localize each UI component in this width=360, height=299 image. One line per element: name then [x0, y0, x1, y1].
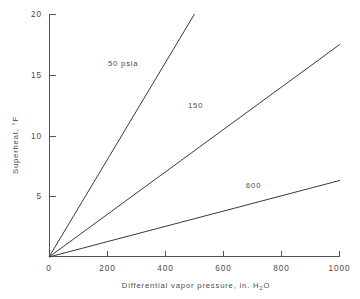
- y-axis-title: Superheat, °F: [11, 116, 20, 174]
- x-tick-label-800: 800: [273, 264, 289, 273]
- x-axis-title-tail: O: [263, 281, 270, 290]
- y-tick-label-20: 20: [31, 10, 42, 19]
- x-tick-label-0: 0: [46, 264, 51, 273]
- x-axis-title: Differential vapor pressure, in. H2O: [122, 281, 270, 291]
- series-label-150: 150: [188, 101, 203, 110]
- series-label-50-psia: 50 psia: [108, 59, 138, 68]
- x-axis-title-main: Differential vapor pressure, in. H: [122, 281, 260, 290]
- y-tick-label-10: 10: [31, 132, 42, 141]
- chart-background: [0, 0, 360, 299]
- x-tick-label-1000: 1000: [329, 264, 351, 273]
- y-tick-label-5: 5: [37, 192, 42, 201]
- x-tick-label-400: 400: [157, 264, 173, 273]
- y-tick-label-15: 15: [31, 71, 42, 80]
- x-tick-label-600: 600: [215, 264, 231, 273]
- line-chart-svg: 20 15 10 5 0 200 400 600 800 1000 50 psi…: [0, 0, 360, 299]
- x-tick-label-200: 200: [99, 264, 115, 273]
- series-label-600: 600: [246, 181, 261, 190]
- chart-figure: 20 15 10 5 0 200 400 600 800 1000 50 psi…: [0, 0, 360, 299]
